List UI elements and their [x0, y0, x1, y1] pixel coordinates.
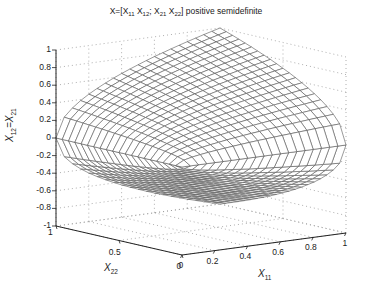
- z-tick-label: -0.8: [36, 202, 51, 212]
- x11-tick-label: 0.8: [305, 242, 317, 252]
- z-tick-label: 0.4: [39, 97, 51, 107]
- z-axis-label: X12=X21: [4, 108, 17, 142]
- x-axis-label: X11: [258, 268, 271, 281]
- z-tick-label: -0.6: [36, 185, 51, 195]
- z-tick-label: 1: [46, 44, 51, 54]
- z-tick-label: 0: [46, 132, 51, 142]
- chart-title: X=[X11 X12; X21 X22] positive semidefini…: [0, 6, 372, 17]
- z-tick-label: -0.4: [36, 167, 51, 177]
- z-tick-label: 0.6: [39, 79, 51, 89]
- x11-tick-label: 0.6: [272, 247, 284, 257]
- x11-tick-label: 0.4: [239, 251, 251, 261]
- y-axis-label: X22: [104, 262, 118, 275]
- psd-cone-surface: [56, 28, 346, 204]
- z-tick-label: 0.2: [39, 114, 51, 124]
- x22-tick-label: 0.5: [109, 247, 121, 257]
- z-tick-label: 0.8: [39, 62, 51, 72]
- x22-tick-label: 0: [177, 261, 182, 271]
- x22-tick-label: 1: [48, 227, 53, 237]
- z-tick-label: -0.2: [36, 150, 51, 160]
- x11-tick-label: 0.2: [207, 256, 219, 266]
- x11-tick-label: 1: [343, 238, 348, 248]
